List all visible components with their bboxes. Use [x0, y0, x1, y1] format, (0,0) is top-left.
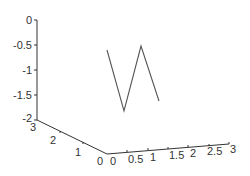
chart-canvas: 0 -0.5 -1 -1.5 -2 3 2 1 0 0 0.5 1 1.5 2 … [0, 0, 250, 176]
y-tick-label: 0 [97, 155, 103, 167]
z-tick-label: -1 [22, 64, 32, 76]
y-tick-label: 1 [75, 146, 81, 158]
z-axis: 0 -0.5 -1 -1.5 -2 [13, 14, 37, 124]
z-tick-label: -0.5 [13, 39, 32, 51]
x-tick-label: 3 [230, 143, 236, 155]
x-tick-label: 1 [150, 151, 156, 163]
x-tick-label: 2 [190, 147, 196, 159]
x-tick-label: 0.5 [128, 153, 143, 165]
x-tick-label: 1.5 [169, 149, 184, 161]
y-axis: 3 2 1 0 [30, 120, 107, 167]
z-tick-label: -1.5 [13, 89, 32, 101]
z-tick-label: 0 [26, 14, 32, 26]
y-tick-label: 3 [30, 121, 36, 133]
x-tick-label: 2.5 [207, 145, 222, 157]
x-tick-label: 0 [110, 155, 116, 167]
data-line [107, 46, 159, 111]
y-tick-label: 2 [50, 134, 56, 146]
x-axis: 0 0.5 1 1.5 2 2.5 3 [107, 142, 236, 167]
